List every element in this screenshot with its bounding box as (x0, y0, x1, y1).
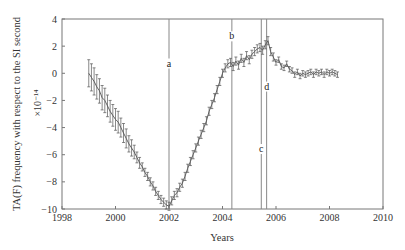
x-axis-title: Years (210, 232, 233, 243)
marker-label-d: d (264, 81, 269, 92)
data-series (87, 37, 339, 211)
y-axis: −10−8−6−4−2024 (41, 14, 65, 215)
x-tick-label: 2004 (213, 212, 233, 223)
y-tick-label: −10 (41, 204, 57, 215)
y-tick-label: −8 (46, 176, 57, 187)
x-tick-label: 2002 (159, 212, 179, 223)
y-axis-multiplier: ×10⁻¹⁴ (32, 89, 43, 117)
y-tick-label: −6 (46, 149, 57, 160)
x-tick-label: 2008 (320, 212, 340, 223)
marker-label-b: b (229, 30, 234, 41)
y-tick-label: −4 (46, 122, 57, 133)
x-tick-label: 2010 (373, 212, 393, 223)
x-tick-label: 2006 (266, 212, 286, 223)
y-tick-label: 2 (52, 41, 57, 52)
chart: abcd 1998200020022004200620082010 −10−8−… (0, 0, 405, 250)
series-line (89, 41, 338, 207)
marker-label-c: c (259, 143, 264, 154)
marker-label-a: a (167, 58, 172, 69)
x-tick-label: 2000 (106, 212, 126, 223)
y-axis-title: TA(F) frequency with respect to the SI s… (11, 16, 23, 211)
y-tick-label: −2 (46, 95, 57, 106)
y-tick-label: 4 (52, 14, 57, 25)
y-tick-label: 0 (52, 68, 57, 79)
